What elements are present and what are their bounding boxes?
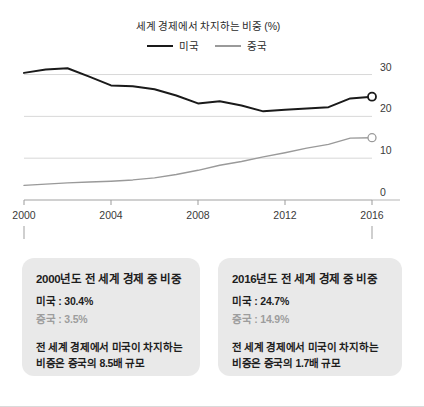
x-tick-label: 2012 xyxy=(273,209,297,221)
chart-x-axis-labels: 20002004200820122016 xyxy=(12,209,384,221)
callout-2000-title: 2000년도 전 세계 경제 중 비중 xyxy=(36,270,187,286)
x-tick-label: 2000 xyxy=(12,209,36,221)
series-line-cn xyxy=(24,138,372,186)
callout-2016-title: 2016년도 전 세계 경제 중 비중 xyxy=(232,270,389,286)
chart-plot-area: 3020100 20002004200820122016 xyxy=(0,0,424,240)
chart-series-lines xyxy=(24,68,376,185)
x-tick-label: 2016 xyxy=(360,209,384,221)
x-tick-label: 2004 xyxy=(99,209,123,221)
callout-2016-cn-stat: 중국 : 14.9% xyxy=(232,311,389,326)
y-tick-label: 0 xyxy=(380,186,386,198)
y-tick-label: 30 xyxy=(380,61,392,73)
line-chart-svg: 3020100 20002004200820122016 xyxy=(0,0,424,240)
callout-2000-note-line2: 비중은 중국의 8.5배 규모 xyxy=(36,355,187,371)
series-endpoint-us xyxy=(368,93,376,101)
callout-2016-note-line2: 비중은 중국의 1.7배 규모 xyxy=(232,355,389,371)
callout-2000: 2000년도 전 세계 경제 중 비중 미국 : 30.4% 중국 : 3.5%… xyxy=(22,258,200,376)
y-tick-label: 20 xyxy=(380,102,392,114)
y-tick-label: 10 xyxy=(380,144,392,156)
chart-gridlines xyxy=(24,75,372,200)
callout-2016-note: 전 세계 경제에서 미국이 차지하는 비중은 중국의 1.7배 규모 xyxy=(232,339,389,372)
callout-2016-note-line1: 전 세계 경제에서 미국이 차지하는 xyxy=(232,339,389,355)
callout-2016-us-stat: 미국 : 24.7% xyxy=(232,293,389,308)
chart-y-axis-labels: 3020100 xyxy=(380,61,392,198)
chart-x-axis xyxy=(24,200,400,205)
callout-2000-cn-stat: 중국 : 3.5% xyxy=(36,311,187,326)
x-tick-label: 2008 xyxy=(186,209,210,221)
series-endpoint-cn xyxy=(368,134,376,142)
callout-2016: 2016년도 전 세계 경제 중 비중 미국 : 24.7% 중국 : 14.9… xyxy=(218,258,402,376)
chart-page: 세계 경제에서 차지하는 비중 (%) 미국 중국 3020100 200020… xyxy=(0,0,424,407)
chart-callout-connectors xyxy=(24,226,372,239)
callout-2000-us-stat: 미국 : 30.4% xyxy=(36,293,187,308)
callout-2000-note: 전 세계 경제에서 미국이 차지하는 비중은 중국의 8.5배 규모 xyxy=(36,339,187,372)
callout-2000-note-line1: 전 세계 경제에서 미국이 차지하는 xyxy=(36,339,187,355)
